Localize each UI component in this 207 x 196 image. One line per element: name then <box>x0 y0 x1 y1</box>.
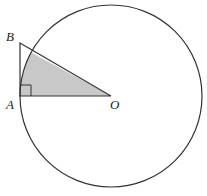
label-a: A <box>5 97 14 112</box>
shaded-sector <box>20 52 111 96</box>
geometry-diagram: B A O <box>0 0 207 196</box>
label-b: B <box>6 29 14 44</box>
label-o: O <box>110 97 120 112</box>
